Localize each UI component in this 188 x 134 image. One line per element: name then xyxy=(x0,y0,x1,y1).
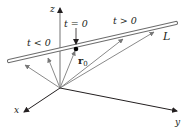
x-axis xyxy=(24,88,60,112)
t-zero-label: t = 0 xyxy=(64,18,88,29)
line-label: L xyxy=(162,30,170,43)
t-positive-label: t > 0 xyxy=(113,15,137,26)
axes xyxy=(24,8,177,112)
t-negative-label: t < 0 xyxy=(27,37,51,48)
x-axis-label: x xyxy=(14,105,19,115)
y-axis xyxy=(60,88,177,111)
line-in-space-diagram: z x y L t = 0 t < 0 t > 0 r0 xyxy=(0,0,188,134)
y-axis-label: y xyxy=(174,117,181,127)
r0-label: r0 xyxy=(78,55,88,68)
point-r0 xyxy=(74,47,79,52)
vector-1 xyxy=(25,65,60,88)
z-axis-label: z xyxy=(49,4,55,14)
